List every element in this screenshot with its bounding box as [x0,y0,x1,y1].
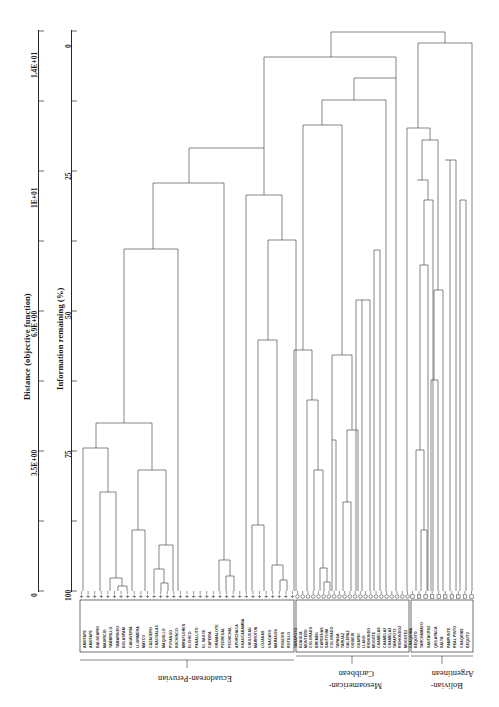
dendrogram-figure: Distance (objective function) 0 3.5E+00 … [0,0,499,707]
group-label-bolivian-line2: Argentinean [432,669,474,679]
group-label-mesoamerican-line2: Caribbean [339,669,374,679]
group-braces [0,0,499,707]
group-label-mesoamerican-line1: Mesoamerican- [329,681,382,691]
group-label-ecuadorean-peruvian: Ecuadorean-Peruvian [158,674,232,684]
group-label-bolivian-line1: Bolivian- [431,681,463,691]
